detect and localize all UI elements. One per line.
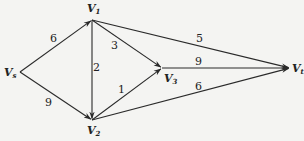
edge-weight-v1-v2: 2: [93, 61, 100, 74]
edge-weight-vs-v2: 9: [45, 96, 52, 109]
edge-v2-v3: [92, 69, 161, 120]
network-graph: 69235196 VsV1V2V3Vt: [0, 0, 304, 141]
edge-weight-vs-v1: 6: [50, 32, 57, 45]
edge-vs-v2: [20, 72, 91, 119]
nodes-group: VsV1V2V3Vt: [4, 2, 304, 138]
edge-vs-v1: [20, 21, 91, 72]
edge-v1-vt: [92, 20, 289, 68]
edge-weight-v2-v3: 1: [118, 83, 125, 96]
node-label-v3: V3: [164, 72, 178, 86]
edge-weight-v1-v3: 3: [111, 39, 118, 52]
edges-group: [20, 20, 289, 120]
node-label-vt: Vt: [292, 62, 304, 76]
edge-v1-v3: [92, 20, 161, 67]
node-label-vs: Vs: [4, 66, 17, 80]
edge-weight-v1-vt: 5: [196, 32, 203, 45]
node-label-v1: V1: [87, 2, 100, 16]
node-label-v2: V2: [87, 124, 101, 138]
edge-weight-v3-vt: 9: [195, 55, 202, 68]
edge-weight-v2-vt: 6: [195, 80, 202, 93]
